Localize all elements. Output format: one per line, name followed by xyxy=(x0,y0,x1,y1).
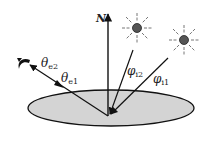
reflection-geometry-diagram: N θe2 θe1 φi2 φi1 xyxy=(0,0,212,148)
surface-ellipse xyxy=(28,90,194,126)
normal-label: N xyxy=(95,12,107,25)
theta-e2-label: θe2 xyxy=(41,56,58,71)
curved-arrow-icon xyxy=(19,59,30,69)
theta-e1-label: θe1 xyxy=(61,71,78,86)
phi-i1-label: φi1 xyxy=(153,72,169,87)
phi-i2-label: φi2 xyxy=(127,64,143,79)
